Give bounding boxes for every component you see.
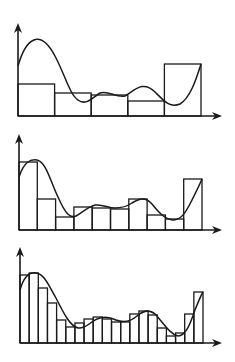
riemann-rectangle xyxy=(37,199,55,230)
riemann-rectangle xyxy=(166,336,175,343)
riemann-rectangle xyxy=(75,323,84,343)
riemann-rectangle xyxy=(121,322,130,343)
riemann-rectangle xyxy=(29,273,38,343)
riemann-rectangle xyxy=(111,209,129,230)
panel-20-rectangles xyxy=(16,247,222,347)
riemann-rectangle xyxy=(92,208,110,230)
riemann-rectangle xyxy=(47,303,56,343)
riemann-rectangle xyxy=(148,315,157,343)
riemann-rectangle xyxy=(139,311,148,343)
diagram-svg xyxy=(0,0,235,362)
panel-10-rectangles xyxy=(15,134,222,234)
riemann-rectangle xyxy=(194,292,203,343)
panel-5-rectangles xyxy=(14,23,222,120)
riemann-rectangle xyxy=(19,162,37,230)
riemann-rectangle xyxy=(38,288,47,343)
riemann-rectangle xyxy=(112,322,121,343)
riemann-rectangle xyxy=(128,101,165,116)
riemann-rectangle xyxy=(147,215,165,230)
riemann-rectangle xyxy=(91,95,128,116)
riemann-rectangle xyxy=(102,319,111,343)
riemann-rectangle xyxy=(18,84,55,116)
riemann-rectangle xyxy=(164,64,201,116)
riemann-rectangle xyxy=(66,327,75,343)
riemann-rectangle xyxy=(56,217,74,230)
riemann-rectangle xyxy=(55,93,92,116)
riemann-rectangle xyxy=(157,328,166,343)
riemann-rectangle xyxy=(57,320,66,343)
riemann-sum-diagram xyxy=(0,0,235,362)
